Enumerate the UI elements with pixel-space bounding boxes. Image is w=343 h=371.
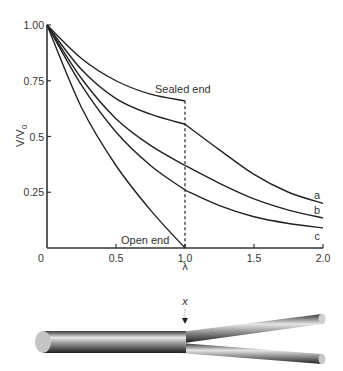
annotations: Sealed endOpen endabc — [121, 83, 321, 246]
x-tick-label: 0.5 — [109, 252, 124, 264]
x-tick-label: 0 — [38, 252, 44, 264]
curve-a — [185, 124, 323, 203]
y-tick-label: 0.75 — [24, 75, 45, 87]
x-tick-label: 2.0 — [316, 252, 331, 264]
main-trunk — [43, 331, 186, 353]
trunk-end-cap — [35, 331, 51, 353]
y-axis-label-sub: 0 — [20, 124, 29, 129]
x-axis-label: λ — [182, 260, 188, 272]
annotation-sealed-end: Sealed end — [155, 83, 211, 95]
annotation-a: a — [314, 189, 321, 201]
curve-c — [185, 190, 323, 228]
figure: 00.51.01.52.01.000.750.50.25 Sealed endO… — [0, 0, 343, 371]
y-axis-label: V/V0 — [14, 124, 29, 147]
x-tick-label: 1.5 — [247, 252, 262, 264]
branching-cable-diagram: x — [35, 295, 326, 364]
y-tick-label: 0.25 — [24, 186, 45, 198]
lower-branch — [180, 343, 322, 364]
y-tick-label: 0.5 — [29, 131, 44, 143]
upper-branch — [180, 314, 322, 343]
annotation-open-end: Open end — [121, 234, 169, 246]
branch-point-label: x — [181, 295, 188, 307]
curve-b — [185, 165, 323, 217]
y-tick-label: 1.00 — [24, 19, 45, 31]
lower-branch-end-cap — [319, 354, 326, 364]
annotation-c: c — [315, 230, 321, 242]
upper-branch-end-cap — [319, 314, 326, 324]
branch-point-arrow-head — [182, 318, 188, 324]
annotation-b: b — [314, 204, 320, 216]
chart: 00.51.01.52.01.000.750.50.25 Sealed endO… — [14, 19, 330, 272]
y-axis-label-main: V/V — [14, 129, 26, 147]
